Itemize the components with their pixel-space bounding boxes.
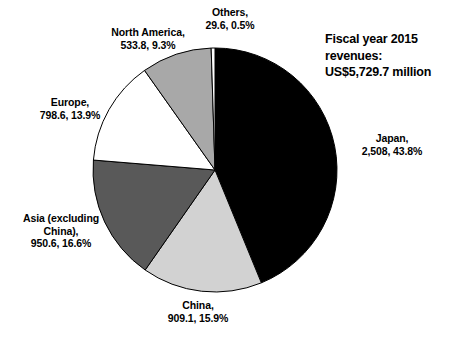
chart-title: Fiscal year 2015 revenues: US$5,729.7 mi… xyxy=(325,31,461,81)
slice-label-europe: Europe, 798.6, 13.9% xyxy=(18,96,122,121)
slice-label-japan: Japan, 2,508, 43.8% xyxy=(340,132,444,157)
slice-label-asia-excluding-china: Asia (excluding China), 950.6, 16.6% xyxy=(2,212,120,250)
pie-slice-group xyxy=(93,48,337,292)
pie-chart-figure: Others, 29.6, 0.5% North America, 533.8,… xyxy=(0,0,461,340)
slice-label-china: China, 909.1, 15.9% xyxy=(150,299,246,324)
slice-label-north-america: North America, 533.8, 9.3% xyxy=(92,26,204,51)
